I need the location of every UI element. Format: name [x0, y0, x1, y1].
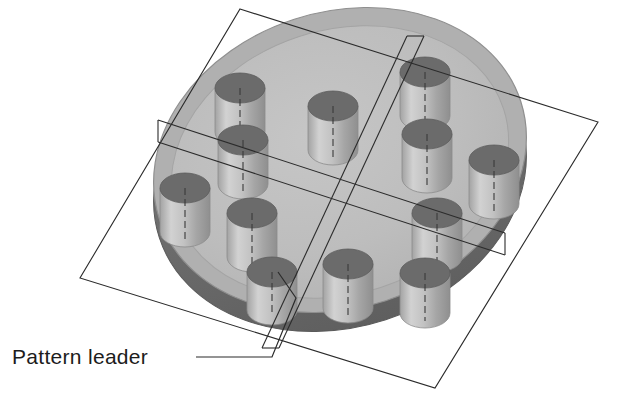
pattern-leader-label: Pattern leader [12, 345, 148, 368]
pin-11 [323, 249, 373, 323]
technical-illustration: Pattern leader [0, 0, 633, 412]
pin-12 [400, 258, 450, 328]
pin-7 [160, 173, 210, 247]
pin-5 [469, 145, 519, 219]
pin-4 [402, 119, 452, 193]
pin-6 [218, 125, 268, 199]
pin-2 [308, 91, 358, 165]
figure-container: Pattern leader [0, 0, 633, 412]
